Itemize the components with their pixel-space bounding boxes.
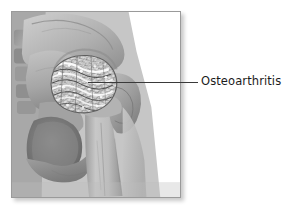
figure-root: Osteoarthritis (0, 0, 288, 212)
hip-joint-illustration (12, 12, 180, 197)
callout-label-osteoarthritis: Osteoarthritis (201, 74, 281, 88)
illustration-bottom-fade (12, 182, 180, 197)
callout-leader-line (88, 82, 198, 83)
illustration-frame (11, 11, 181, 198)
